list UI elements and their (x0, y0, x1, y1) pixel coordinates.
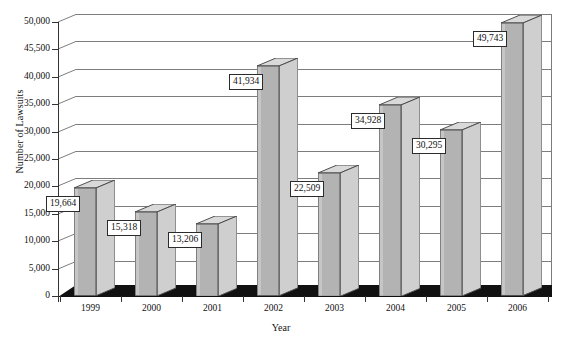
bar-value-label: 22,509 (290, 181, 324, 197)
bar-3d-shape (501, 15, 542, 296)
bar-column (135, 204, 176, 296)
x-axis-tick-label: 2004 (370, 303, 422, 313)
bar-3d-shape (440, 122, 481, 296)
x-axis-tick-mark (243, 296, 244, 302)
x-axis-tick-label: 1999 (65, 303, 117, 313)
x-axis-title: Year (0, 322, 562, 333)
bar-series: 19,66415,31813,20641,93422,50934,92830,2… (0, 0, 562, 340)
x-axis-tick-label: 2001 (187, 303, 239, 313)
bar-chart: Number of Lawsuits 05,00010,00015,00020,… (0, 0, 562, 340)
bar-3d-shape (196, 216, 237, 296)
x-axis-tick-mark (182, 296, 183, 302)
bar-column (74, 180, 115, 296)
bar-value-label: 13,206 (168, 232, 202, 248)
bar-value-label: 34,928 (351, 113, 385, 129)
x-axis-tick-mark (365, 296, 366, 302)
x-axis-tick-label: 2000 (126, 303, 178, 313)
x-axis-tick-mark (304, 296, 305, 302)
bar-value-label: 15,318 (107, 220, 141, 236)
bar-column (501, 15, 542, 296)
bar-value-label: 19,664 (46, 196, 80, 212)
bar-3d-shape (379, 97, 420, 296)
bar-value-label: 49,743 (473, 31, 507, 47)
x-axis-tick-labels: 19992000200120022003200420052006 (0, 303, 562, 319)
bar-column (257, 58, 298, 296)
x-axis-tick-mark (487, 296, 488, 302)
bar-3d-shape (318, 165, 359, 296)
x-axis-tick-mark (58, 296, 59, 302)
x-axis-tick-label: 2002 (248, 303, 300, 313)
bar-value-label: 30,295 (412, 138, 446, 154)
x-axis-tick-mark (121, 296, 122, 302)
x-axis-tick-mark (60, 296, 61, 302)
bar-column (440, 122, 481, 296)
x-axis-tick-mark (548, 296, 549, 302)
x-axis-tick-label: 2006 (492, 303, 544, 313)
bar-3d-shape (257, 58, 298, 296)
x-axis-tick-mark (426, 296, 427, 302)
bar-column (379, 97, 420, 296)
bar-value-label: 41,934 (229, 74, 263, 90)
x-axis-tick-label: 2005 (431, 303, 483, 313)
bar-column (318, 165, 359, 296)
bar-3d-shape (135, 204, 176, 296)
x-axis-tick-label: 2003 (309, 303, 361, 313)
bar-column (196, 216, 237, 296)
bar-3d-shape (74, 180, 115, 296)
